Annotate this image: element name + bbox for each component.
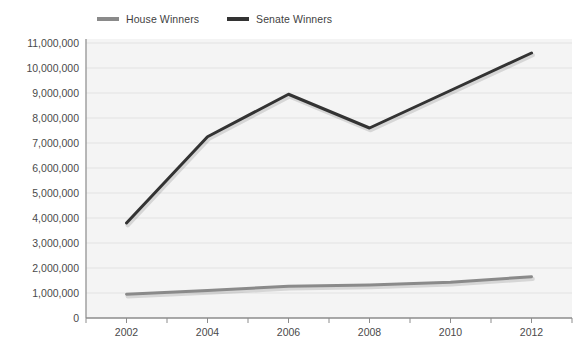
line-chart: House Winners Senate Winners 11,000,0001…	[0, 0, 579, 340]
y-tick-label: 8,000,000	[32, 112, 79, 124]
x-tick-label: 2004	[196, 326, 220, 338]
x-tick-label: 2006	[277, 326, 301, 338]
plot-area-wrapper: 11,000,00010,000,0009,000,0008,000,0007,…	[0, 0, 579, 340]
y-axis-tick-labels: 11,000,00010,000,0009,000,0008,000,0007,…	[26, 37, 79, 324]
y-tick-label: 0	[73, 312, 79, 324]
y-tick-label: 5,000,000	[32, 187, 79, 199]
y-tick-label: 10,000,000	[26, 62, 79, 74]
y-tick-label: 2,000,000	[32, 262, 79, 274]
x-tick-label: 2002	[115, 326, 139, 338]
y-tick-label: 11,000,000	[27, 37, 79, 49]
x-tick-label: 2012	[520, 326, 544, 338]
y-tick-label: 3,000,000	[32, 237, 79, 249]
y-tick-label: 6,000,000	[32, 162, 79, 174]
plot-background	[86, 39, 572, 318]
plot-svg: 11,000,00010,000,0009,000,0008,000,0007,…	[0, 0, 579, 340]
x-axis-tick-labels: 200220042006200820102012	[86, 318, 572, 338]
y-tick-label: 4,000,000	[32, 212, 79, 224]
x-tick-label: 2010	[439, 326, 463, 338]
y-tick-label: 9,000,000	[32, 87, 79, 99]
y-tick-label: 1,000,000	[32, 287, 79, 299]
x-tick-label: 2008	[358, 326, 382, 338]
plot-background-group	[86, 39, 572, 318]
y-tick-label: 7,000,000	[32, 137, 79, 149]
